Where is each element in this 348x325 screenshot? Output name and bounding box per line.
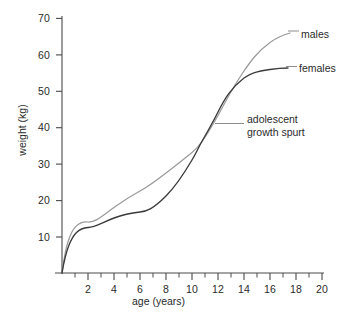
x-tick-label-14: 14 (233, 283, 255, 295)
x-tick-label-4: 4 (103, 283, 125, 295)
x-tick-label-12: 12 (207, 283, 229, 295)
series-label-females: females (299, 62, 336, 74)
x-tick-label-10: 10 (181, 283, 203, 295)
annotation-adolescent-growth-spurt: adolescent growth spurt (247, 113, 305, 138)
x-tick-label-18: 18 (285, 283, 307, 295)
x-tick-label-16: 16 (259, 283, 281, 295)
series-line-males (62, 33, 290, 273)
y-tick-label-70: 70 (24, 12, 50, 24)
x-tick-label-2: 2 (77, 283, 99, 295)
growth-chart-figure: 70 60 50 40 30 20 10 2 4 6 8 10 12 14 16… (0, 0, 348, 325)
y-axis-title: weight (kg) (16, 95, 28, 165)
y-tick-label-60: 60 (24, 49, 50, 61)
y-tick-label-10: 10 (24, 231, 50, 243)
annotation-line-1: adolescent (247, 113, 305, 126)
series-line-females (62, 68, 288, 273)
x-axis-title: age (years) (132, 295, 185, 307)
y-axis-ticks (56, 18, 62, 237)
x-tick-label-8: 8 (155, 283, 177, 295)
chart-plot-area (0, 0, 348, 325)
annotation-line-2: growth spurt (247, 126, 305, 139)
series-label-males: males (301, 28, 329, 40)
x-tick-label-20: 20 (311, 283, 333, 295)
x-tick-label-6: 6 (129, 283, 151, 295)
y-tick-label-20: 20 (24, 194, 50, 206)
